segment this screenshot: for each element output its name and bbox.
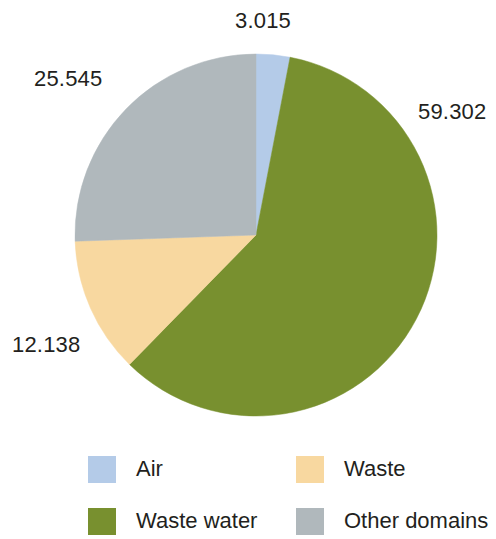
legend-item-waste-water[interactable]: Waste water [88,508,296,535]
pie-plot-area [74,53,438,417]
legend-swatch-waste-water [88,508,116,535]
value-label-air: 3.015 [235,10,291,32]
pie-slice-other-domains[interactable] [75,54,256,241]
legend-item-other-domains[interactable]: Other domains [296,508,488,535]
legend-item-waste[interactable]: Waste [296,456,488,483]
legend-item-air[interactable]: Air [88,456,296,483]
chart-legend: Air Waste Waste water Other domains [88,443,488,539]
legend-label-air: Air [136,458,163,480]
pie-svg [74,53,438,417]
value-label-waste: 12.138 [12,334,81,356]
legend-swatch-other-domains [296,508,324,535]
pie-slice-group [75,54,437,416]
legend-label-waste: Waste [344,458,406,480]
legend-swatch-air [88,456,116,483]
legend-label-waste-water: Waste water [136,510,257,532]
legend-swatch-waste [296,456,324,483]
legend-label-other-domains: Other domains [344,510,488,532]
